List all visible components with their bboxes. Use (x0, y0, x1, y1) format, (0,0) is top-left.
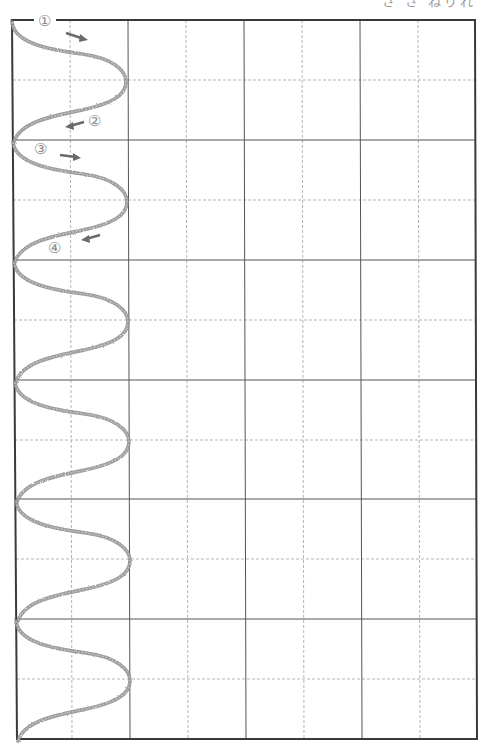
tracing-worksheet: ① ② ③ ④ (0, 0, 490, 750)
stroke-order-marker-1: ① (36, 13, 53, 29)
stroke-order-marker-4: ④ (46, 240, 63, 256)
stroke-order-marker-3: ③ (32, 141, 49, 157)
solid-guides (13, 20, 477, 739)
practice-grid (0, 0, 490, 750)
direction-arrows (60, 33, 100, 243)
stroke-order-marker-2: ② (86, 113, 103, 129)
